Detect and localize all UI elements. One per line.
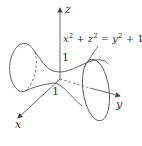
equation-label: x2 + z2 = y2 + 1 bbox=[63, 33, 142, 44]
equation-leader bbox=[84, 46, 98, 67]
x-axis-label: x bbox=[15, 119, 21, 130]
y-axis-hidden bbox=[60, 79, 90, 88]
left-ellipse-front bbox=[10, 43, 35, 91]
z-tick-one: 1 bbox=[62, 52, 69, 63]
z-axis-label: z bbox=[65, 4, 71, 15]
left-ellipse-back bbox=[25, 52, 36, 91]
y-axis bbox=[90, 88, 120, 96]
hyperboloid-diagram bbox=[0, 0, 142, 146]
y-axis-label: y bbox=[116, 99, 122, 110]
hyperboloid-figure: z y x 1 1 x2 + z2 = y2 + 1 bbox=[0, 0, 142, 146]
upper-outline bbox=[35, 52, 108, 72]
x-tick-one: 1 bbox=[52, 86, 59, 97]
